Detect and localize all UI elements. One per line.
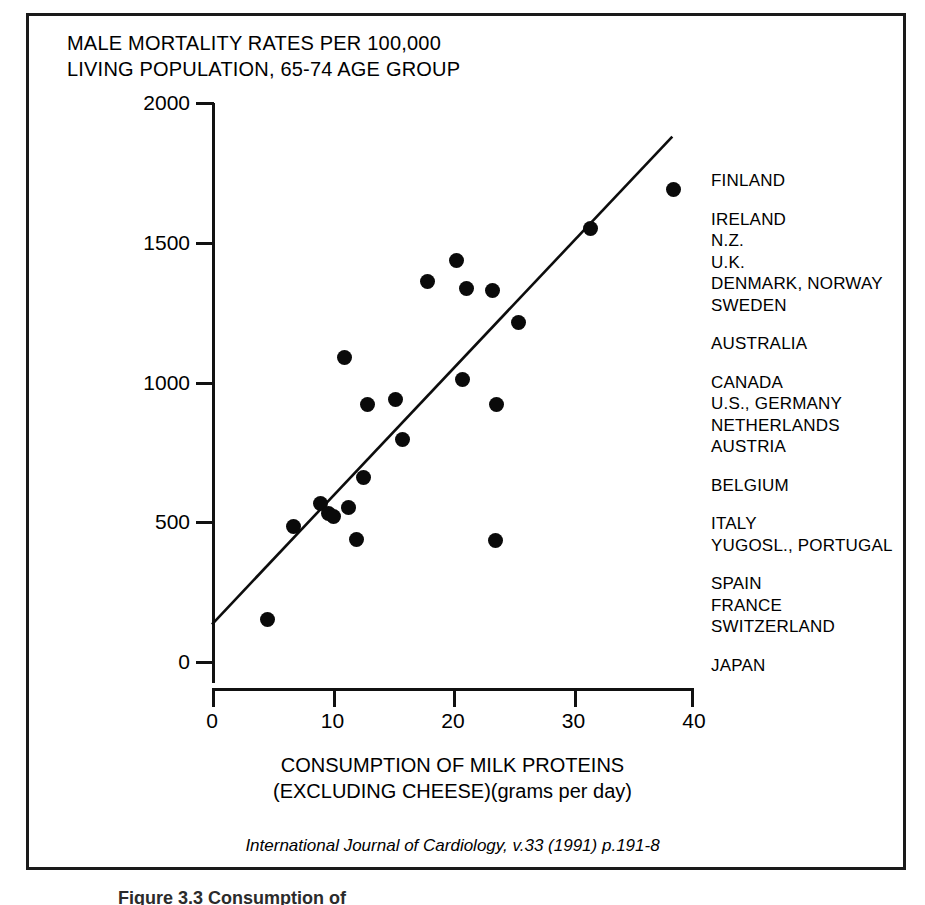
data-point — [488, 533, 503, 548]
country-label: IRELAND — [711, 209, 901, 231]
data-point — [395, 432, 410, 447]
data-point — [459, 281, 474, 296]
country-label: SWEDEN — [711, 295, 901, 317]
country-group-1: IRELANDN.Z.U.K.DENMARK, NORWAYSWEDEN — [711, 209, 901, 317]
x-tick-label-20: 20 — [423, 710, 483, 732]
data-point — [420, 274, 435, 289]
data-point — [326, 509, 341, 524]
x-tick-label-0: 0 — [182, 710, 242, 732]
x-axis-caption-line-1: CONSUMPTION OF MILK PROTEINS — [180, 752, 725, 778]
x-tick-10 — [333, 688, 336, 707]
y-tick-label-500: 500 — [155, 511, 190, 532]
country-group-2: AUSTRALIA — [711, 333, 901, 355]
country-label: FINLAND — [711, 170, 901, 192]
figure-container: MALE MORTALITY RATES PER 100,000 LIVING … — [0, 0, 925, 905]
y-tick-label-0: 0 — [178, 651, 190, 672]
y-tick-label-1000: 1000 — [143, 372, 190, 393]
country-label: U.K. — [711, 252, 901, 274]
country-label: CANADA — [711, 372, 901, 394]
y-axis-labels: 0500100015002000 — [90, 0, 190, 905]
data-point — [356, 470, 371, 485]
x-tick-label-10: 10 — [303, 710, 363, 732]
country-group-3: CANADAU.S., GERMANYNETHERLANDSAUSTRIA — [711, 372, 901, 458]
x-tick-0 — [212, 688, 215, 707]
data-point — [349, 532, 364, 547]
country-label: YUGOSL., PORTUGAL — [711, 535, 901, 557]
y-tick-label-2000: 2000 — [143, 92, 190, 113]
country-label: U.S., GERMANY — [711, 393, 901, 415]
scatter-plot-area — [212, 103, 694, 662]
country-label: AUSTRIA — [711, 436, 901, 458]
data-point — [341, 500, 356, 515]
country-label: FRANCE — [711, 595, 901, 617]
country-label: DENMARK, NORWAY — [711, 273, 901, 295]
country-group-6: SPAINFRANCESWITZERLAND — [711, 573, 901, 638]
data-point — [485, 283, 500, 298]
data-point — [489, 397, 504, 412]
data-point — [388, 392, 403, 407]
country-group-5: ITALYYUGOSL., PORTUGAL — [711, 513, 901, 556]
x-tick-20 — [453, 688, 456, 707]
x-tick-40 — [691, 688, 694, 707]
country-annotation-list: FINLANDIRELANDN.Z.U.K.DENMARK, NORWAYSWE… — [711, 170, 901, 693]
x-tick-label-40: 40 — [664, 710, 724, 732]
country-group-0: FINLAND — [711, 170, 901, 192]
country-label: ITALY — [711, 513, 901, 535]
x-tick-30 — [574, 688, 577, 707]
country-label: NETHERLANDS — [711, 415, 901, 437]
data-point — [360, 397, 375, 412]
country-group-7: JAPAN — [711, 655, 901, 677]
figure-caption: Figure 3.3 Consumption of — [118, 888, 818, 905]
data-point — [286, 519, 301, 534]
data-point — [511, 315, 526, 330]
country-label: SWITZERLAND — [711, 616, 901, 638]
country-label: SPAIN — [711, 573, 901, 595]
country-label: BELGIUM — [711, 475, 901, 497]
data-point — [260, 612, 275, 627]
country-group-4: BELGIUM — [711, 475, 901, 497]
data-point — [449, 253, 464, 268]
data-point — [666, 182, 681, 197]
data-point — [337, 350, 352, 365]
x-axis-caption-line-2: (EXCLUDING CHEESE)(grams per day) — [180, 778, 725, 804]
y-tick-label-1500: 1500 — [143, 232, 190, 253]
data-point — [583, 221, 598, 236]
x-axis-caption: CONSUMPTION OF MILK PROTEINS (EXCLUDING … — [180, 752, 725, 804]
source-citation: International Journal of Cardiology, v.3… — [180, 836, 725, 856]
data-point — [455, 372, 470, 387]
country-label: AUSTRALIA — [711, 333, 901, 355]
x-tick-label-30: 30 — [544, 710, 604, 732]
country-label: N.Z. — [711, 230, 901, 252]
country-label: JAPAN — [711, 655, 901, 677]
